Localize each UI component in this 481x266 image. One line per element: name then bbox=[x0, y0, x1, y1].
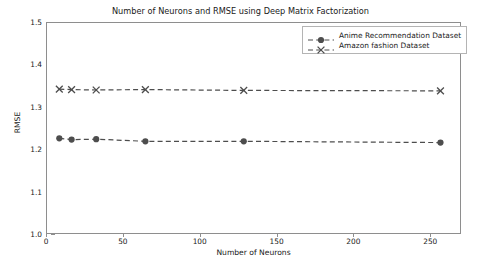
y-tick-label: 1.5 bbox=[14, 18, 42, 27]
chart-title: Number of Neurons and RMSE using Deep Ma… bbox=[0, 6, 481, 16]
chart-figure: Number of Neurons and RMSE using Deep Ma… bbox=[0, 0, 481, 266]
data-point-marker bbox=[142, 138, 148, 144]
legend-label: Amazon fashion Dataset bbox=[335, 41, 429, 50]
data-point-marker bbox=[437, 139, 443, 145]
data-point-marker bbox=[68, 137, 74, 143]
x-tick-label: 150 bbox=[257, 237, 297, 246]
legend-x-marker-icon bbox=[307, 40, 335, 50]
x-tick-label: 50 bbox=[103, 237, 143, 246]
chart-legend: Anime Recommendation DatasetAmazon fashi… bbox=[302, 26, 467, 54]
y-tick-label: 1.4 bbox=[14, 60, 42, 69]
data-point-marker bbox=[241, 138, 247, 144]
x-tick-label: 250 bbox=[410, 237, 450, 246]
data-point-marker bbox=[56, 135, 62, 141]
plot-svg bbox=[47, 23, 462, 235]
x-tick-label: 0 bbox=[26, 237, 66, 246]
y-tick-label: 1.3 bbox=[14, 102, 42, 111]
x-tick-label: 100 bbox=[180, 237, 220, 246]
y-axis-tick-labels: 1.01.11.21.31.41.5 bbox=[10, 0, 42, 266]
legend-entry-2[interactable]: Amazon fashion Dataset bbox=[307, 40, 461, 50]
series-2 bbox=[56, 86, 444, 94]
series-1 bbox=[56, 135, 443, 145]
data-point-marker bbox=[93, 136, 99, 142]
y-tick-label: 1.2 bbox=[14, 145, 42, 154]
x-axis-label: Number of Neurons bbox=[46, 248, 461, 257]
series-line bbox=[59, 138, 440, 142]
x-tick-label: 200 bbox=[333, 237, 373, 246]
legend-entry-1[interactable]: Anime Recommendation Dataset bbox=[307, 30, 461, 40]
series-line bbox=[59, 89, 440, 91]
y-tick-label: 1.1 bbox=[14, 187, 42, 196]
legend-label: Anime Recommendation Dataset bbox=[335, 31, 461, 40]
legend-circle-marker-icon bbox=[307, 30, 335, 40]
